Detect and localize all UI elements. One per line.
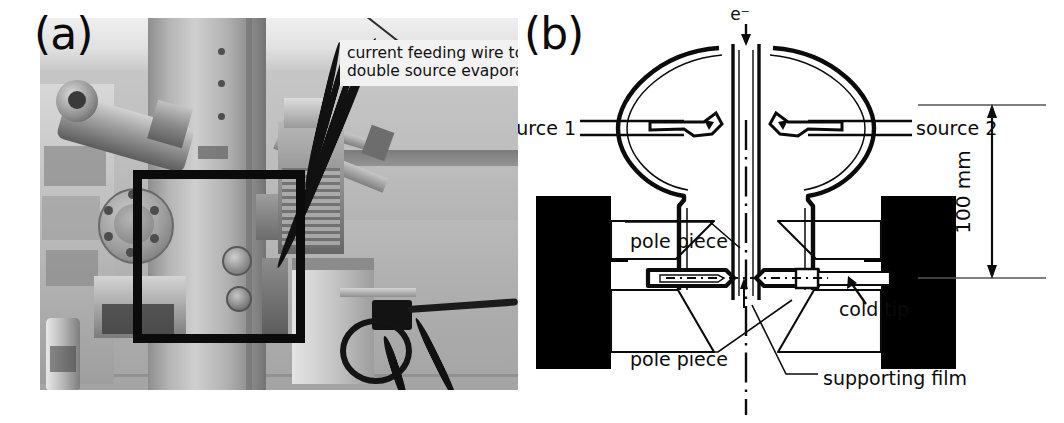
schematic-svg: e⁻ source 1 source 2 pole piece pole pie…	[518, 0, 1064, 423]
photo-column-bolt	[218, 80, 225, 87]
pole-piece-lower-left	[611, 290, 714, 352]
pole-piece-upper-label: pole piece	[630, 230, 728, 252]
dimension-label: 100 mm	[951, 150, 975, 234]
photo-flange-bolt	[104, 206, 113, 215]
photo-column-bolt	[218, 113, 225, 120]
photo-highlight-box	[133, 170, 305, 343]
photo-caption-line-1: current feeding wire to	[347, 44, 518, 62]
dimension-arrow-head-top	[987, 104, 997, 118]
photo-caption-line-2: double source evaporator	[347, 62, 518, 80]
figure-root: current feeding wire to double source ev…	[0, 0, 1064, 423]
photo-column-bolt	[218, 48, 225, 55]
pole-piece-upper-right	[778, 221, 881, 259]
supporting-film-label: supporting film	[823, 367, 967, 389]
panel-a-label: (a)	[34, 12, 92, 56]
electron-beam-label: e⁻	[730, 4, 749, 24]
photo-instrument-arm-knob	[68, 91, 86, 109]
photo-flange-bolt	[104, 232, 113, 241]
cold-tip-label: cold tip	[839, 298, 909, 320]
panel-b-label: (b)	[524, 12, 583, 56]
pole-piece-lower-label: pole piece	[630, 348, 728, 370]
photo-shelf-box	[44, 146, 106, 186]
photo-bottle-label	[50, 346, 76, 372]
photo-shelf-box	[42, 196, 100, 240]
electron-beam-arrow-head	[741, 34, 751, 46]
photo-shelf-box	[46, 250, 98, 286]
source-2-label: source 2	[916, 117, 997, 139]
photo-transfer-rod	[340, 288, 416, 297]
photo-column-flange	[198, 146, 228, 159]
panel-a-photograph: current feeding wire to double source ev…	[40, 18, 518, 390]
source-1-label: source 1	[518, 117, 576, 139]
panel-b-schematic: e⁻ source 1 source 2 pole piece pole pie…	[518, 0, 1064, 423]
photo-caption-box: current feeding wire to double source ev…	[340, 40, 518, 86]
dimension-arrow-head-bottom	[987, 265, 997, 279]
